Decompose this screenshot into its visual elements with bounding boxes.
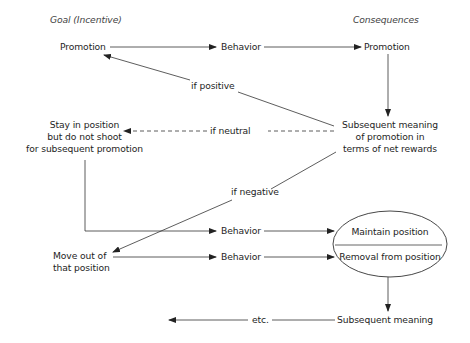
node-etc: etc.	[252, 314, 269, 326]
edge-label-if-positive: if positive	[191, 80, 235, 92]
node-removal-from-position: Removal from position	[335, 251, 445, 263]
line-if-negative-upper	[271, 152, 336, 189]
stay-line-1: Stay in position	[22, 119, 147, 131]
node-maintain-position: Maintain position	[338, 226, 442, 238]
meaning-line-3: terms of net rewards	[335, 143, 445, 155]
line-if-positive-lower	[238, 92, 334, 126]
outcome-ellipse	[333, 211, 447, 277]
consequences-header: Consequences	[353, 14, 419, 26]
stay-line-3: for subsequent promotion	[22, 143, 147, 155]
arrow-if-positive	[104, 55, 190, 80]
stay-line-2: but do not shoot	[22, 131, 147, 143]
edge-label-if-neutral: if neutral	[210, 125, 251, 137]
node-subsequent-meaning-bottom: Subsequent meaning	[337, 314, 433, 326]
arrow-stay-to-behavior	[85, 160, 216, 231]
node-move-out: Move out of that position	[53, 250, 110, 274]
goal-header: Goal (Incentive)	[50, 14, 122, 26]
node-promotion-consequence: Promotion	[364, 41, 410, 53]
node-behavior-low: Behavior	[221, 251, 261, 263]
node-stay-in-position: Stay in position but do not shoot for su…	[22, 119, 147, 155]
edge-label-if-negative: if negative	[231, 186, 279, 198]
node-promotion-goal: Promotion	[60, 41, 106, 53]
node-behavior-top: Behavior	[221, 41, 261, 53]
node-behavior-mid: Behavior	[221, 225, 261, 237]
meaning-line-1: Subsequent meaning	[335, 119, 445, 131]
moveout-line-2: that position	[53, 262, 110, 274]
moveout-line-1: Move out of	[53, 250, 110, 262]
meaning-line-2: of promotion in	[335, 131, 445, 143]
arrow-if-negative	[113, 200, 232, 252]
node-subsequent-meaning: Subsequent meaning of promotion in terms…	[335, 119, 445, 155]
